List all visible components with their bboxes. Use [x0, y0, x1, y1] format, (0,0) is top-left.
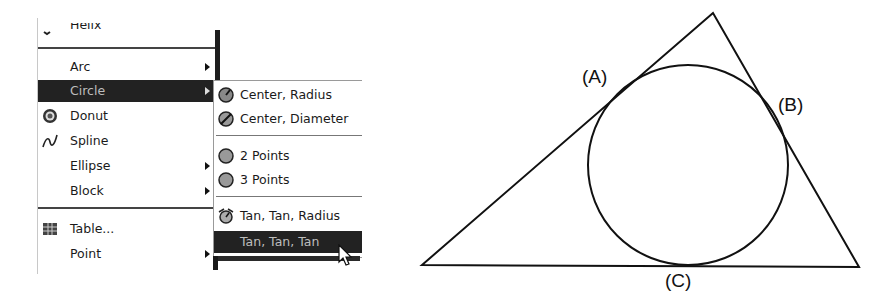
helix-icon — [42, 23, 58, 37]
menu-item-point[interactable]: Point — [38, 243, 216, 265]
submenu-arrow-icon — [205, 250, 210, 258]
menu-item-arc[interactable]: Arc — [38, 56, 216, 78]
circle-center-radius-icon — [218, 87, 234, 103]
submenu-shadow — [213, 256, 218, 270]
menu-item-donut[interactable]: Donut — [38, 105, 216, 127]
submenu-item-label: Center, Radius — [240, 84, 332, 106]
spline-icon — [42, 133, 58, 149]
submenu-item-center-diameter[interactable]: Center, Diameter — [214, 108, 362, 130]
menu-item-table[interactable]: Table... — [38, 218, 216, 240]
circle-center-diameter-icon — [218, 111, 234, 127]
submenu-item-center-radius[interactable]: Center, Radius — [214, 84, 362, 106]
table-icon — [42, 221, 58, 237]
menu-item-label: Block — [70, 180, 104, 202]
submenu-arrow-icon — [205, 162, 210, 170]
submenu-arrow-icon — [205, 87, 210, 95]
submenu-item-label: Tan, Tan, Radius — [240, 205, 340, 227]
menu-item-label: Helix — [70, 23, 101, 36]
menu-item-label: Spline — [70, 130, 108, 152]
submenu-item-3-points[interactable]: 3 Points — [214, 169, 362, 191]
tangent-label-b: (B) — [778, 94, 803, 116]
menu-item-ellipse[interactable]: Ellipse — [38, 155, 216, 177]
menu-item-block[interactable]: Block — [38, 180, 216, 202]
circle-3-points-icon — [218, 172, 234, 188]
submenu-separator — [216, 135, 362, 136]
menu-separator — [38, 47, 216, 49]
circle-2-points-icon — [218, 148, 234, 164]
circle-tan-tan-radius-icon — [218, 208, 234, 224]
submenu-item-label: Tan, Tan, Tan — [240, 231, 319, 253]
submenu-item-label: Center, Diameter — [240, 108, 348, 130]
submenu-item-label: 3 Points — [240, 169, 289, 191]
mouse-pointer-icon — [337, 244, 355, 268]
circle-submenu: Center, Radius Center, Diameter 2 Points… — [213, 80, 362, 258]
tangent-label-c: (C) — [665, 270, 691, 292]
menu-item-circle[interactable]: Circle — [38, 80, 216, 102]
menu-separator — [38, 207, 216, 209]
menu-item-label: Arc — [70, 56, 90, 78]
submenu-item-tan-tan-radius[interactable]: Tan, Tan, Radius — [214, 205, 362, 227]
menu-item-spline[interactable]: Spline — [38, 130, 216, 152]
submenu-arrow-icon — [205, 63, 210, 71]
submenu-item-2-points[interactable]: 2 Points — [214, 145, 362, 167]
menu-item-label: Circle — [70, 80, 105, 102]
donut-icon — [42, 108, 58, 124]
triangle — [422, 13, 859, 267]
menu-item-label: Donut — [70, 105, 108, 127]
tangent-circle-drawing — [400, 0, 891, 306]
submenu-item-label: 2 Points — [240, 145, 289, 167]
tangent-label-a: (A) — [582, 66, 607, 88]
submenu-separator — [216, 196, 362, 197]
draw-menu: Helix Arc Circle Donut Spline Ellipse Bl… — [37, 18, 216, 274]
submenu-arrow-icon — [205, 187, 210, 195]
menu-item-label: Ellipse — [70, 155, 110, 177]
menu-item-label: Table... — [70, 218, 114, 240]
menu-shadow — [215, 30, 220, 86]
menu-item-label: Point — [70, 243, 101, 265]
menu-item-helix[interactable]: Helix — [38, 23, 216, 37]
